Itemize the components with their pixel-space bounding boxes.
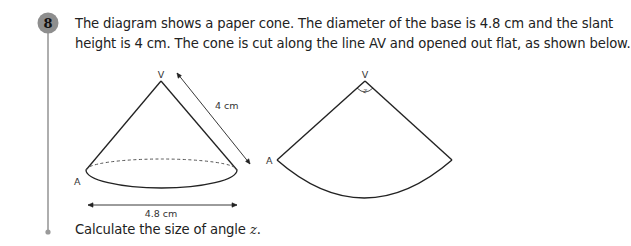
question-text-line-2: height is 4 cm. The cone is cut along th…: [75, 34, 631, 54]
sector-apex-label: V: [362, 69, 369, 80]
question-text-line-1: The diagram shows a paper cone. The diam…: [75, 14, 613, 34]
diameter-arrowhead-left: [88, 203, 93, 207]
prompt-variable: z: [250, 222, 257, 237]
prompt-end: .: [257, 222, 261, 237]
sector-right-radius: [365, 81, 452, 160]
sector-diagram: [277, 81, 452, 198]
sector-arc: [277, 160, 452, 198]
margin-line-end-dot: [45, 229, 50, 234]
slant-height-label: 4 cm: [215, 100, 239, 111]
angle-z-label: z: [362, 87, 367, 95]
cone-base-back-arc-dashed: [86, 159, 237, 170]
cone-point-a-label: A: [74, 176, 81, 187]
question-number: 8: [43, 16, 52, 31]
cone-right-edge: [161, 81, 237, 170]
diameter-arrowhead-right: [232, 203, 237, 207]
sector-point-a-label: A: [266, 155, 273, 166]
cone-base-front-arc: [86, 170, 237, 188]
cone-apex-label: V: [158, 69, 165, 80]
slant-height-arrow: [177, 73, 250, 164]
diameter-label: 4.8 cm: [145, 208, 178, 219]
cone-left-edge: [86, 81, 161, 170]
prompt-text: Calculate the size of angle: [75, 222, 250, 237]
question-number-badge: 8: [38, 13, 59, 235]
question-prompt: Calculate the size of angle z.: [75, 220, 261, 240]
cone-diagram: [86, 73, 250, 207]
sector-left-radius: [277, 81, 365, 160]
